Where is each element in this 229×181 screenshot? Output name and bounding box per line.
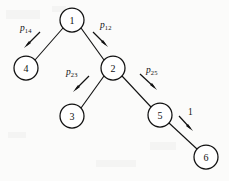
tree-diagram-figure: 1 4 2 3 5 6 p14 p12 p23 p25 [0, 0, 229, 181]
diagram-canvas: 1 4 2 3 5 6 [0, 0, 229, 181]
node-5-label: 5 [158, 110, 163, 121]
node-4: 4 [14, 56, 38, 80]
node-1: 1 [60, 8, 84, 32]
edge-label-p12-sub: 12 [105, 24, 112, 31]
edge-label-p14: p14 [20, 24, 32, 34]
arrow-2-5 [140, 74, 157, 90]
edge-label-5-6: 1 [188, 108, 193, 118]
node-2-label: 2 [111, 63, 116, 74]
edge-label-p23: p23 [66, 68, 78, 78]
node-5: 5 [148, 103, 172, 127]
edge-label-p25: p25 [146, 66, 158, 76]
arrow-1-4 [24, 32, 40, 48]
node-6-label: 6 [204, 152, 209, 163]
node-6: 6 [194, 145, 218, 169]
edge-label-p14-sub: 14 [25, 27, 32, 34]
arrow-5-6 [179, 116, 193, 131]
node-1-label: 1 [70, 15, 75, 26]
edge-5-6 [169, 123, 197, 149]
arrow-2-3 [73, 76, 89, 92]
node-2: 2 [101, 56, 125, 80]
node-3-label: 3 [70, 111, 75, 122]
edge-label-p12: p12 [100, 21, 112, 31]
arrow-1-2 [93, 32, 108, 47]
edge-label-p25-sub: 25 [151, 69, 158, 76]
edge-label-p23-sub: 23 [71, 71, 78, 78]
edge-1-2 [81, 28, 104, 60]
node-4-label: 4 [24, 63, 29, 74]
node-3: 3 [60, 104, 84, 128]
edge-label-5-6-base: 1 [188, 107, 193, 117]
